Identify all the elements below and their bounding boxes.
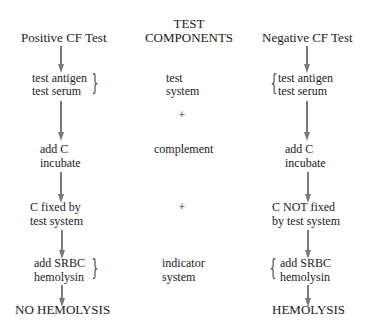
positive-step1-line1: test antigen [32, 71, 87, 85]
positive-step2-line1: add C [40, 142, 68, 156]
negative-result: HEMOLYSIS [272, 302, 345, 317]
component-test-system-line1: test [166, 71, 183, 85]
positive-result: NO HEMOLYSIS [15, 302, 110, 317]
negative-step4-line1: add SRBC [280, 256, 331, 270]
component-complement: complement [154, 142, 213, 156]
right-brace-icon: } [92, 257, 99, 279]
component-indicator-system-line2: system [162, 270, 195, 284]
component-test-system-line2: system [166, 84, 199, 98]
positive-step2-line2: incubate [40, 156, 81, 170]
left-brace-icon: { [270, 257, 277, 279]
negative-step2-line1: add C [285, 142, 313, 156]
negative-step2-line2: incubate [285, 156, 326, 170]
positive-step3-line1: C fixed by [30, 200, 81, 214]
plus-sign: + [176, 200, 188, 214]
negative-step3-line2: by test system [272, 214, 340, 228]
positive-header: Positive CF Test [21, 30, 107, 45]
negative-step1-line1: test antigen [278, 71, 333, 85]
positive-step4-line2: hemolysin [34, 270, 84, 284]
component-indicator-system-line1: indicator [162, 256, 205, 270]
negative-step4-line2: hemolysin [280, 270, 330, 284]
negative-header: Negative CF Test [262, 30, 353, 45]
negative-step1-line2: test serum [278, 84, 327, 98]
components-header-line2: COMPONENTS [140, 30, 238, 45]
right-brace-icon: } [92, 72, 99, 94]
positive-step1-line2: test serum [32, 84, 81, 98]
positive-step4-line1: add SRBC [34, 256, 85, 270]
plus-sign: + [176, 108, 188, 122]
negative-step3-line1: C NOT fixed [272, 200, 335, 214]
components-header-line1: TEST [153, 16, 225, 31]
left-brace-icon: { [271, 72, 278, 94]
positive-step3-line2: test system [30, 214, 83, 228]
